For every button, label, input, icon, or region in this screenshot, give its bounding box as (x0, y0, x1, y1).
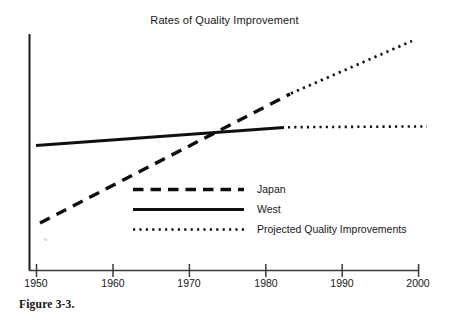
x-tick-label-2000: 2000 (396, 277, 440, 289)
legend-label-west: West (257, 203, 281, 215)
series-line-west-projected (288, 126, 427, 127)
x-tick-label-1950: 1950 (14, 277, 58, 289)
series-line-west (36, 128, 284, 146)
chart-plot-area (0, 0, 449, 320)
series-line-japan-projected (291, 41, 412, 93)
figure-container: Rates of Quality Improvement (0, 0, 449, 320)
x-tick-label-1990: 1990 (320, 277, 364, 289)
x-tick-label-1980: 1980 (244, 277, 288, 289)
figure-caption: Figure 3-3. (19, 298, 75, 310)
legend-label-projected: Projected Quality Improvements (257, 223, 406, 235)
legend-label-japan: Japan (257, 183, 286, 195)
legend-swatches (133, 190, 244, 230)
x-tick-label-1970: 1970 (167, 277, 211, 289)
series-line-japan (40, 94, 290, 223)
x-tick-label-1960: 1960 (91, 277, 135, 289)
scan-speck (44, 238, 47, 241)
